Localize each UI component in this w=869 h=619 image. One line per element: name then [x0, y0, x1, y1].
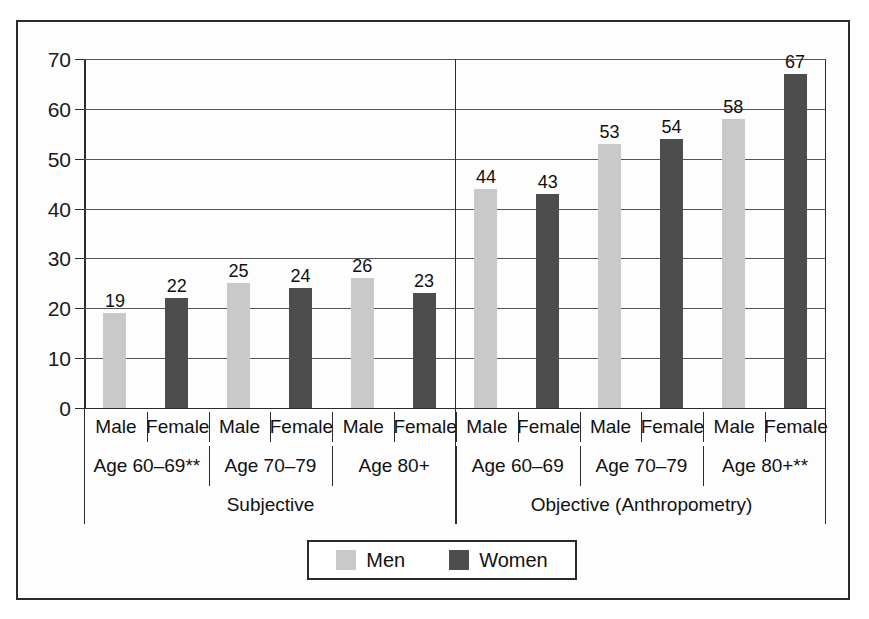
bar-value-label: 23: [414, 272, 434, 290]
legend-item: Women: [449, 549, 548, 572]
bar-value-label: 67: [785, 53, 805, 71]
age-group-label: Age 80+**: [703, 446, 827, 486]
bar: 19: [103, 313, 126, 408]
bar-chart: 706050403020100 192225242623444353545867…: [18, 22, 852, 602]
y-tick-label-10: 10: [48, 348, 71, 369]
legend: MenWomen: [307, 540, 577, 580]
bar-value-label: 25: [229, 262, 249, 280]
method-label-row: SubjectiveObjective (Anthropometry): [85, 486, 825, 524]
bar: 26: [351, 278, 374, 408]
bar-value-label: 58: [723, 98, 743, 116]
sex-label: Male: [332, 408, 394, 446]
plot-right-border: [825, 59, 826, 408]
y-tick-mark-20: [75, 308, 84, 309]
age-group-label: Age 60–69**: [85, 446, 209, 486]
bar: 54: [660, 139, 683, 408]
bar: 44: [474, 189, 497, 408]
y-tick-mark-30: [75, 258, 84, 259]
age-label-row: Age 60–69**Age 70–79Age 80+Age 60–69Age …: [85, 446, 825, 486]
bar-value-label: 53: [600, 123, 620, 141]
bar: 24: [289, 288, 312, 408]
category-label-table: MaleFemaleMaleFemaleMaleFemaleMaleFemale…: [84, 408, 826, 524]
y-tick-mark-10: [75, 358, 84, 359]
bar: 58: [722, 119, 745, 408]
figure-frame: 706050403020100 192225242623444353545867…: [16, 20, 850, 600]
age-group-label: Age 80+: [332, 446, 456, 486]
age-group-label: Age 60–69: [456, 446, 580, 486]
bar: 43: [536, 194, 559, 408]
bar: 23: [413, 293, 436, 408]
bar: 25: [227, 283, 250, 408]
legend-swatch-women: [449, 550, 469, 570]
y-tick-label-40: 40: [48, 198, 71, 219]
y-tick-mark-60: [75, 109, 84, 110]
y-tick-label-0: 0: [59, 398, 71, 419]
legend-label: Women: [479, 549, 548, 572]
bar-value-label: 44: [476, 168, 496, 186]
y-tick-label-70: 70: [48, 49, 71, 70]
y-axis: [84, 59, 86, 408]
method-label: Subjective: [85, 486, 456, 524]
bar-value-label: 26: [352, 257, 372, 275]
bar-value-label: 22: [167, 277, 187, 295]
legend-swatch-men: [336, 550, 356, 570]
y-tick-label-30: 30: [48, 248, 71, 269]
bar: 53: [598, 144, 621, 408]
sex-label: Male: [456, 408, 518, 446]
y-tick-mark-40: [75, 209, 84, 210]
sex-label: Female: [765, 408, 827, 446]
y-tick-label-50: 50: [48, 148, 71, 169]
bar-value-label: 43: [538, 173, 558, 191]
legend-label: Men: [366, 549, 405, 572]
sex-label: Female: [641, 408, 703, 446]
y-tick-mark-0: [75, 408, 84, 409]
sex-label: Male: [209, 408, 271, 446]
method-label: Objective (Anthropometry): [456, 486, 827, 524]
sex-label-row: MaleFemaleMaleFemaleMaleFemaleMaleFemale…: [85, 408, 825, 446]
bar-value-label: 19: [105, 292, 125, 310]
y-tick-mark-70: [75, 59, 84, 60]
y-tick-label-20: 20: [48, 298, 71, 319]
age-group-label: Age 70–79: [580, 446, 704, 486]
y-tick-mark-50: [75, 159, 84, 160]
y-tick-label-60: 60: [48, 98, 71, 119]
sex-label: Female: [394, 408, 456, 446]
bar: 67: [784, 74, 807, 408]
sex-label: Female: [518, 408, 580, 446]
bar: 22: [165, 298, 188, 408]
bar-value-label: 24: [290, 267, 310, 285]
sex-label: Female: [270, 408, 332, 446]
bar-value-label: 54: [661, 118, 681, 136]
age-group-label: Age 70–79: [209, 446, 333, 486]
sex-label: Male: [580, 408, 642, 446]
sex-label: Male: [703, 408, 765, 446]
sex-label: Male: [85, 408, 147, 446]
plot-area: 706050403020100 192225242623444353545867: [84, 59, 826, 408]
sex-label: Female: [147, 408, 209, 446]
legend-item: Men: [336, 549, 405, 572]
